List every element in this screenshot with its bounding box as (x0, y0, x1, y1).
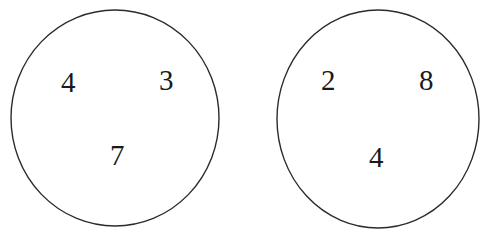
left-circle-outline (11, 10, 219, 226)
right-circle-number-3: 4 (369, 143, 384, 172)
figure-canvas: 4 3 7 2 8 4 (0, 0, 489, 240)
right-circle-number-1: 2 (321, 66, 336, 95)
circles-svg (0, 0, 489, 240)
left-circle-number-2: 3 (159, 66, 174, 95)
left-circle-number-1: 4 (61, 68, 76, 97)
right-circle-number-2: 8 (419, 66, 434, 95)
left-circle-number-3: 7 (110, 141, 125, 170)
right-circle-outline (277, 10, 479, 228)
